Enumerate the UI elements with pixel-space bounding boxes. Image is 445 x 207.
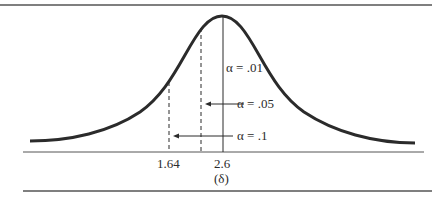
tick-label-1-64: 1.64: [157, 156, 180, 171]
distribution-svg: α = .01 α = .05 α = .1 1.64 2.6 (δ): [0, 0, 445, 207]
distribution-figure: α = .01 α = .05 α = .1 1.64 2.6 (δ): [0, 0, 445, 207]
label-alpha-05: α = .05: [237, 96, 274, 111]
arrow-head-left-icon: [173, 134, 179, 139]
label-alpha-01: α = .01: [226, 60, 263, 75]
arrow-head-left-icon: [205, 102, 211, 107]
delta-label: (δ): [214, 171, 229, 186]
tick-label-2-6: 2.6: [214, 156, 231, 171]
label-alpha-1: α = .1: [237, 128, 267, 143]
